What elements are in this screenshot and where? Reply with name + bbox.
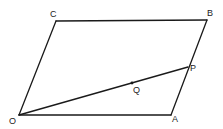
label-B: B xyxy=(207,8,213,18)
diagram-canvas: O A B C P Q xyxy=(0,0,223,129)
segment-AB xyxy=(171,20,207,115)
label-P: P xyxy=(190,63,196,73)
label-A: A xyxy=(172,114,178,124)
label-O: O xyxy=(9,116,16,126)
label-C: C xyxy=(50,9,57,19)
label-Q: Q xyxy=(133,85,140,95)
segment-CO xyxy=(19,21,56,115)
segment-OP xyxy=(19,67,188,115)
segment-BC xyxy=(56,20,207,21)
parallelogram-diagram: O A B C P Q xyxy=(0,0,223,129)
point-Q-dot xyxy=(131,82,134,85)
